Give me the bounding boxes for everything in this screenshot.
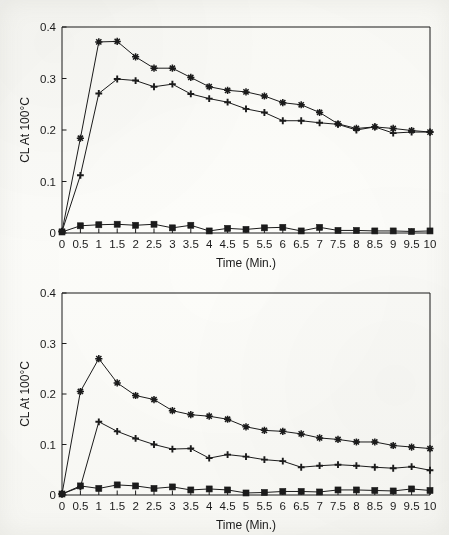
marker-square [59,229,65,235]
x-tick-label: 2.5 [146,500,162,512]
x-tick-label: 8 [353,238,359,250]
marker-star [150,65,157,72]
marker-star [77,388,84,395]
marker-star [169,65,176,72]
y-tick-label: 0.1 [40,176,56,188]
series-star [58,355,433,498]
marker-plus [187,445,194,452]
y-tick-label: 0.4 [40,21,57,33]
marker-star [353,438,360,445]
marker-star [206,83,213,90]
marker-square [335,487,341,493]
marker-star [187,74,194,81]
x-tick-label: 7.5 [330,500,346,512]
marker-star [169,407,176,414]
x-tick-label: 1 [96,500,102,512]
marker-star [150,396,157,403]
marker-square [133,483,139,489]
marker-star [114,379,121,386]
marker-plus [206,455,213,462]
marker-square [96,485,102,491]
y-tick-label: 0.1 [40,439,56,451]
marker-square [206,486,212,492]
x-tick-label: 0 [59,238,65,250]
series-line [62,41,430,231]
marker-star [224,416,231,423]
marker-plus [114,428,121,435]
marker-plus [132,77,139,84]
marker-square [317,489,323,495]
marker-star [187,411,194,418]
marker-plus [390,465,397,472]
marker-plus [206,95,213,102]
marker-plus [132,435,139,442]
marker-square [225,225,231,231]
marker-star [77,135,84,142]
x-tick-label: 9.5 [404,238,420,250]
x-tick-label: 7.5 [330,238,346,250]
marker-plus [353,462,360,469]
marker-square [372,487,378,493]
marker-square [225,487,231,493]
y-axis-title: CL At 100°C [18,361,32,427]
marker-square [77,483,83,489]
y-tick-label: 0.2 [40,124,56,136]
x-axis-title: Time (Min.) [216,256,276,270]
x-tick-label: 2 [132,500,138,512]
marker-plus [95,418,102,425]
marker-square [59,491,65,497]
x-tick-label: 3.5 [183,238,199,250]
marker-plus [151,83,158,90]
marker-square [114,221,120,227]
y-tick-label: 0.3 [40,338,56,350]
x-tick-label: 5 [243,238,249,250]
marker-star [279,428,286,435]
marker-square [390,228,396,234]
chart-bottom-svg: 00.10.20.30.400.511.522.533.544.555.566.… [0,270,449,535]
marker-star [206,413,213,420]
marker-star [242,88,249,95]
x-tick-label: 5.5 [256,238,272,250]
marker-plus [243,453,250,460]
x-tick-label: 10 [424,238,437,250]
marker-star [390,442,397,449]
x-tick-label: 4.5 [220,500,236,512]
marker-plus [316,119,323,126]
marker-square [280,488,286,494]
y-axis-title: CL At 100°C [18,97,32,163]
series-plus [59,76,434,235]
marker-star [242,423,249,430]
marker-square [188,487,194,493]
marker-square [280,224,286,230]
marker-plus [169,81,176,88]
x-tick-label: 4 [206,238,213,250]
x-tick-label: 6 [280,238,286,250]
marker-plus [224,451,231,458]
x-tick-label: 8.5 [367,500,383,512]
marker-plus [187,91,194,98]
marker-plus [408,463,415,470]
marker-square [298,228,304,234]
marker-square [261,225,267,231]
marker-star [114,38,121,45]
marker-plus [298,117,305,124]
marker-star [224,87,231,94]
y-tick-label: 0 [50,227,56,239]
marker-square [151,485,157,491]
x-tick-label: 2 [132,238,138,250]
x-tick-label: 9 [390,500,396,512]
x-tick-label: 1.5 [109,238,125,250]
marker-square [317,224,323,230]
marker-plus [335,461,342,468]
x-tick-label: 5.5 [256,500,272,512]
marker-square [169,484,175,490]
marker-square [77,223,83,229]
series-star [58,38,433,235]
marker-star [426,445,433,452]
marker-square [133,222,139,228]
x-tick-label: 1 [96,238,102,250]
chart-top: 00.10.20.30.400.511.522.533.544.555.566.… [0,0,449,270]
x-tick-label: 2.5 [146,238,162,250]
marker-square [409,486,415,492]
series-line [62,79,430,231]
